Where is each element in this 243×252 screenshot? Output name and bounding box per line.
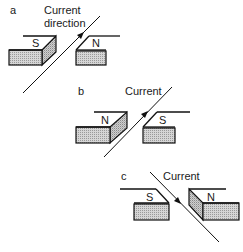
pole-label-c-left: S (146, 191, 153, 203)
magnet-current-diagram: a Current direction S N b Current (0, 0, 243, 252)
pole-label-a-left: S (32, 37, 39, 49)
magnet-side-face (110, 112, 127, 143)
pole-label-b-right: S (159, 114, 166, 126)
current-label-a-line2: direction (44, 17, 86, 29)
magnet-c-right: N (189, 189, 239, 220)
magnet-a-right: N (76, 36, 120, 65)
panel-label-a: a (10, 4, 17, 16)
magnet-c-left: S (120, 189, 169, 220)
pole-label-c-right: N (207, 191, 215, 203)
magnet-side-face (42, 36, 56, 65)
magnet-front-face (143, 128, 175, 143)
magnet-b-right: S (143, 112, 190, 143)
magnet-front-face (76, 127, 110, 143)
magnet-a-left: S (9, 36, 56, 65)
panel-c: c Current S N (120, 170, 239, 242)
panel-label-b: b (78, 85, 84, 97)
magnet-b-left: N (76, 112, 127, 143)
magnet-front-face (76, 51, 106, 65)
pole-label-a-right: N (92, 37, 100, 49)
magnet-front-face (203, 203, 239, 220)
pole-label-b-left: N (101, 114, 109, 126)
magnet-side-face (189, 189, 203, 220)
magnet-front-face (134, 204, 169, 220)
current-arrow-b-icon (141, 111, 148, 118)
magnet-bevel-edge (156, 189, 169, 203)
panel-label-c: c (121, 170, 127, 182)
current-label-b: Current (125, 85, 162, 97)
current-label-a-line1: Current (44, 4, 81, 16)
panel-b: b Current N S (76, 85, 190, 157)
panel-a: a Current direction S N (9, 4, 120, 93)
magnet-front-face (9, 50, 42, 65)
current-label-c: Current (163, 170, 200, 182)
